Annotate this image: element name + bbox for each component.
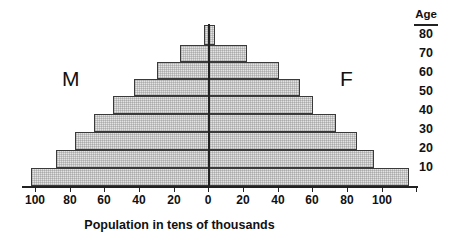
age-legend-header: Age <box>404 8 448 21</box>
x-tick-7 <box>278 186 279 192</box>
x-tick-11 <box>416 186 417 192</box>
x-axis-line <box>22 186 418 188</box>
x-tick-label-8: 60 <box>292 194 332 207</box>
age-legend-value-20: 20 <box>404 142 448 155</box>
x-tick-0 <box>35 186 36 192</box>
x-tick-label-0: 100 <box>15 194 55 207</box>
x-tick-2 <box>104 186 105 192</box>
population-pyramid-chart: M F 100 80 60 40 20 0 20 40 60 80 100 Po… <box>0 0 455 242</box>
x-tick-label-6: 20 <box>223 194 263 207</box>
x-tick-3 <box>139 186 140 192</box>
x-tick-6 <box>243 186 244 192</box>
x-tick-5 <box>208 186 209 192</box>
age-legend-value-50: 50 <box>404 85 448 98</box>
label-female: F <box>340 68 353 89</box>
center-axis-line <box>208 24 210 186</box>
bar-female-row-4 <box>209 114 336 132</box>
plot-area: M F <box>0 0 455 190</box>
age-legend-rule <box>414 24 438 26</box>
bar-female-row-8 <box>209 45 247 62</box>
bar-female-row-3 <box>209 132 357 150</box>
age-legend-value-40: 40 <box>404 104 448 117</box>
label-male: M <box>62 68 80 89</box>
x-tick-1 <box>70 186 71 192</box>
x-tick-label-5: 0 <box>188 194 228 207</box>
bar-male-row-7 <box>157 62 209 79</box>
x-tick-label-9: 80 <box>327 194 367 207</box>
bar-male-row-6 <box>134 79 209 96</box>
age-legend-value-80: 80 <box>404 28 448 41</box>
bar-male-row-4 <box>94 114 209 132</box>
x-tick-10 <box>382 186 383 192</box>
bar-female-row-2 <box>209 150 374 168</box>
x-tick-9 <box>347 186 348 192</box>
bar-male-row-2 <box>56 150 209 168</box>
age-legend-value-70: 70 <box>404 47 448 60</box>
age-legend-value-60: 60 <box>404 66 448 79</box>
x-tick-8 <box>312 186 313 192</box>
bar-female-row-6 <box>209 79 300 96</box>
x-axis-title: Population in tens of thousands <box>0 218 407 232</box>
bar-female-row-1 <box>209 168 409 186</box>
bar-male-row-5 <box>113 96 209 114</box>
age-legend-value-10: 10 <box>404 161 448 174</box>
x-tick-4 <box>174 186 175 192</box>
x-tick-label-2: 60 <box>84 194 124 207</box>
age-legend-value-30: 30 <box>404 123 448 136</box>
x-tick-label-3: 40 <box>119 194 159 207</box>
x-tick-label-10: 100 <box>362 194 402 207</box>
bar-female-row-7 <box>209 62 279 79</box>
bar-male-row-8 <box>180 45 209 62</box>
bar-female-row-5 <box>209 96 313 114</box>
bar-male-row-3 <box>75 132 209 150</box>
bar-male-row-1 <box>31 168 209 186</box>
